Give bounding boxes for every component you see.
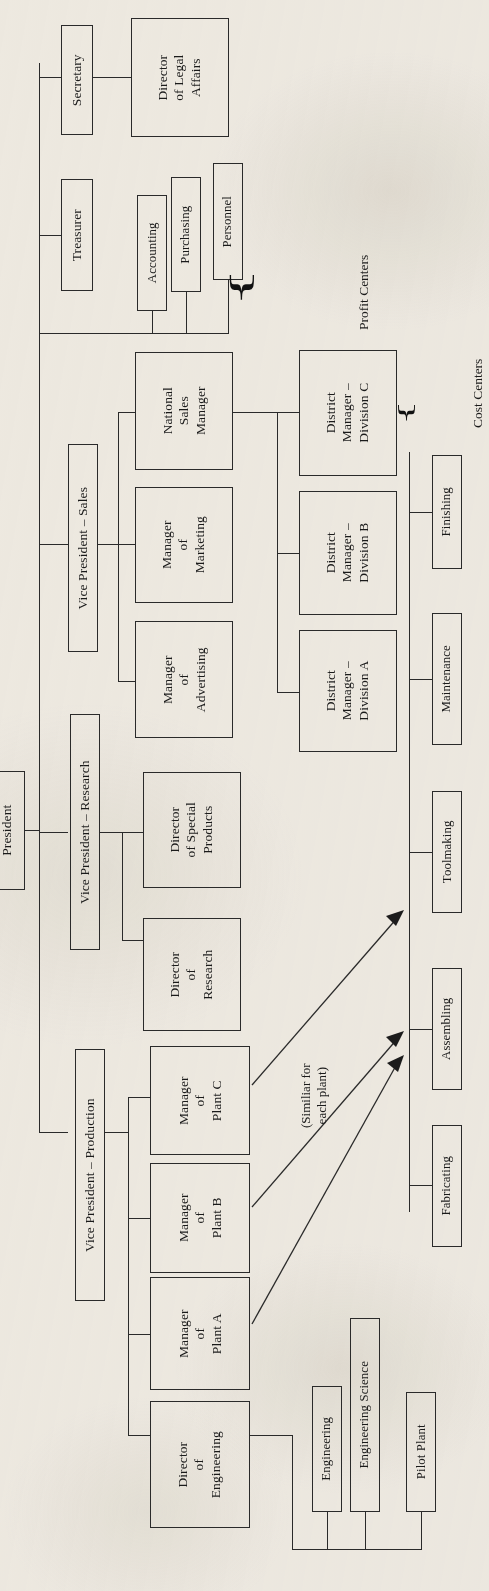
plant-to-cost-center-arrows	[0, 0, 489, 1591]
arrow-plant-a	[252, 1055, 404, 1324]
arrow-plant-c	[252, 910, 404, 1085]
org-chart: President Secretary Director of Legal Af…	[0, 0, 489, 1591]
arrow-plant-b	[252, 1031, 404, 1207]
